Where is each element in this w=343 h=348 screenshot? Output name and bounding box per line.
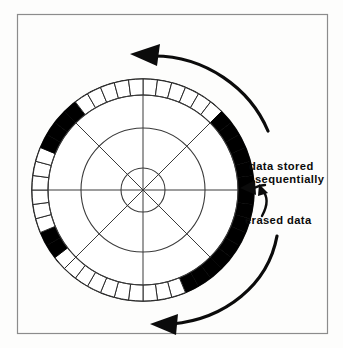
data-stored-label-line1: data stored	[249, 160, 314, 172]
disk-diagram-svg: data stored sequentially erased data	[0, 0, 343, 348]
ring-sector	[129, 79, 143, 96]
data-stored-label: data stored sequentially	[249, 160, 325, 185]
disk-platter	[32, 79, 254, 301]
erased-data-label: erased data	[245, 214, 312, 226]
erased-data-label-line1: erased data	[245, 214, 312, 226]
ring-sector	[32, 190, 49, 204]
data-stored-label-line2: sequentially	[255, 173, 325, 185]
figure-root: data stored sequentially erased data	[0, 0, 343, 348]
ring-sector	[143, 284, 157, 301]
radial-spoke-group	[48, 95, 238, 285]
